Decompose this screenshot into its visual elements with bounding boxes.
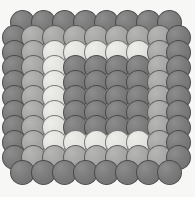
figure-canvas	[0, 0, 195, 197]
circle-packing-layer	[0, 0, 195, 197]
disc-dark	[157, 160, 182, 185]
